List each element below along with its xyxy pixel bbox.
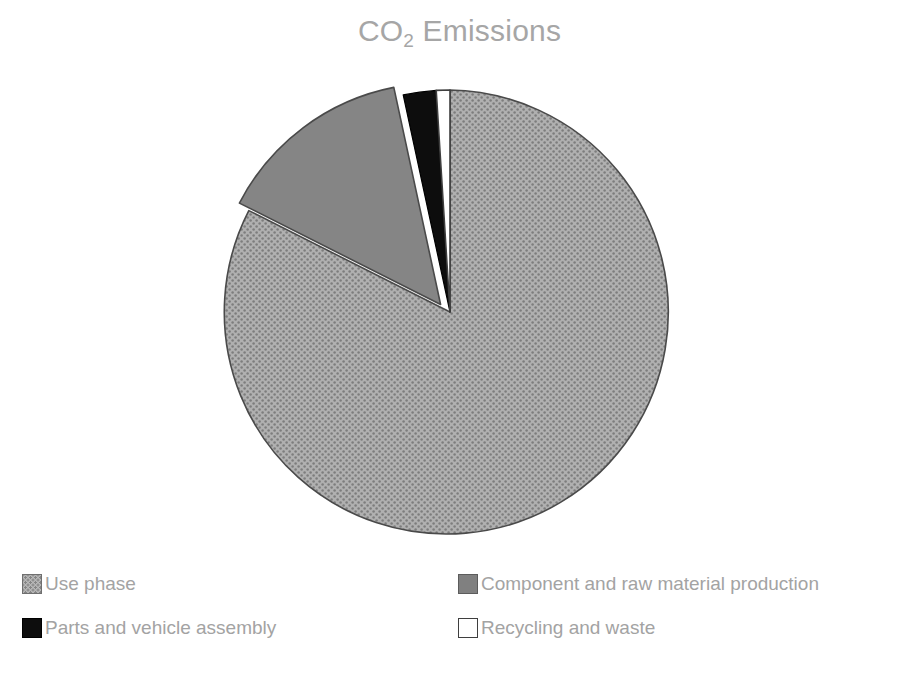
legend-label: Recycling and waste [481, 617, 655, 639]
legend-label: Parts and vehicle assembly [45, 617, 276, 639]
legend-row: Parts and vehicle assembly Recycling and… [22, 614, 902, 654]
recycling-swatch-icon [458, 618, 478, 638]
component-swatch-icon [458, 574, 478, 594]
pie-chart-figure: CO2 Emissions [0, 0, 919, 691]
parts-swatch-icon [22, 618, 42, 638]
legend-label: Component and raw material production [481, 573, 819, 595]
chart-title-main: CO [358, 14, 403, 47]
pie-svg [0, 60, 919, 560]
legend-item-component[interactable]: Component and raw material production [458, 570, 898, 598]
legend-item-use-phase[interactable]: Use phase [22, 570, 458, 598]
pie-plot-area [0, 60, 919, 560]
legend-row: Use phase Component and raw material pro… [22, 570, 902, 610]
chart-title: CO2 Emissions [0, 14, 919, 48]
legend-item-recycling[interactable]: Recycling and waste [458, 614, 898, 642]
chart-legend: Use phase Component and raw material pro… [22, 566, 902, 666]
usephase-swatch-icon [22, 574, 42, 594]
chart-title-subscript: 2 [403, 30, 414, 51]
legend-item-parts[interactable]: Parts and vehicle assembly [22, 614, 458, 642]
chart-title-tail: Emissions [414, 14, 561, 47]
legend-label: Use phase [45, 573, 136, 595]
